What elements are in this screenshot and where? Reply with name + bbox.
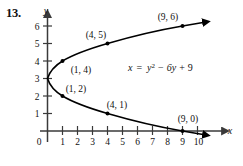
x-tick-label-7: 7	[150, 137, 155, 147]
point-label-9-6: (9, 6)	[158, 12, 179, 23]
point-marker-4-5	[106, 42, 110, 46]
point-marker-9-0	[181, 129, 185, 133]
equation-exponent: 2	[152, 62, 156, 70]
point-label-4-5: (4, 5)	[86, 30, 107, 41]
point-label-4-1: (4, 1)	[107, 100, 128, 111]
x-tick-label-5: 5	[120, 137, 125, 147]
point-label-9-0: (9, 0)	[178, 114, 199, 125]
x-tick-label-10: 10	[194, 137, 204, 147]
point-marker-1-4	[61, 59, 65, 63]
y-tick-label-6: 6	[35, 22, 40, 32]
point-markers	[61, 24, 185, 133]
equation-equals: =	[136, 62, 142, 73]
x-tick-label-4: 4	[105, 137, 110, 147]
x-tick-label-3: 3	[90, 137, 95, 147]
figure-container: 13.	[0, 0, 243, 166]
equation-plus: +	[179, 62, 185, 73]
y-tick-label-1: 1	[35, 109, 40, 119]
y-tick-label-3: 3	[35, 74, 40, 84]
y-tick-label-2: 2	[35, 92, 40, 102]
equation-term3: 9	[188, 62, 193, 73]
y-tick-label-4: 4	[35, 57, 40, 67]
point-marker-1-2	[61, 94, 65, 98]
equation-minus: −	[158, 62, 164, 73]
x-tick-label-6: 6	[135, 137, 140, 147]
y-axis-label: y	[43, 5, 49, 16]
equation-lhs: x	[127, 62, 133, 73]
point-marker-9-6	[181, 24, 185, 28]
equation-annotation: x=y2−6y+9	[127, 62, 193, 74]
point-label-1-4: (1, 4)	[71, 65, 92, 76]
x-tick-label-1: 1	[60, 137, 65, 147]
point-marker-4-1	[106, 112, 110, 116]
parabola-plot: 1 2 3 4 5 6 7 8 9 10 1 2 3 4 5 6 0 x y	[0, 0, 243, 166]
origin-label: 0	[37, 137, 42, 147]
point-label-1-2: (1, 2)	[66, 84, 87, 95]
x-tick-label-9: 9	[180, 137, 185, 147]
svg-text:x=y2−6y+9: x=y2−6y+9	[127, 62, 193, 74]
x-tick-label-8: 8	[165, 137, 170, 147]
x-tick-label-2: 2	[75, 137, 80, 147]
equation-term2: 6y	[167, 62, 177, 73]
y-tick-label-5: 5	[35, 39, 40, 49]
x-axis-label: x	[227, 125, 233, 136]
